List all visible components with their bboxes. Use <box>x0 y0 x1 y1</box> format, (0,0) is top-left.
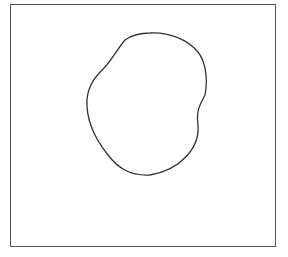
blob-outline <box>87 33 206 175</box>
blob-shape <box>0 0 288 257</box>
